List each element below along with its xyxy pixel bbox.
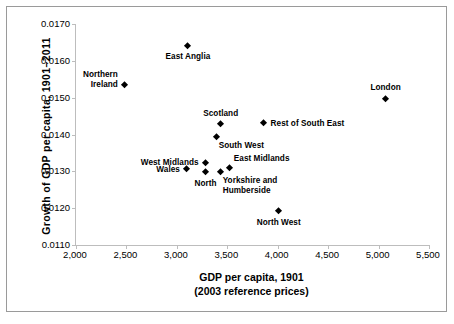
data-point-marker[interactable] (226, 164, 233, 171)
data-point-label: East Anglia (143, 52, 233, 62)
data-point-label-line: North (161, 179, 251, 189)
data-point-label-line: London (341, 83, 431, 93)
data-point-marker[interactable] (202, 169, 209, 176)
y-tick-mark (72, 135, 76, 136)
data-point-marker[interactable] (184, 42, 191, 49)
data-point-marker[interactable] (275, 208, 282, 215)
data-point-label-line: South West (219, 141, 314, 151)
y-tick-label: 0.0120 (24, 202, 70, 213)
x-tick-label: 3,000 (154, 249, 198, 260)
data-point-marker[interactable] (202, 159, 209, 166)
x-tick-label: 2,000 (53, 249, 97, 260)
data-point-label: North (161, 179, 251, 189)
data-point-label-line: North West (234, 218, 324, 228)
x-axis-title-line2: (2003 reference prices) (75, 284, 428, 298)
data-point-marker[interactable] (121, 81, 128, 88)
data-point-marker[interactable] (217, 121, 224, 128)
y-tick-label: 0.0160 (24, 55, 70, 66)
y-tick-label: 0.0150 (24, 92, 70, 103)
data-point-label-line: East Midlands (234, 154, 324, 164)
y-tick-label: 0.0130 (24, 165, 70, 176)
x-axis-tick-labels: 2,0002,5003,0003,5004,0004,5005,0005,500 (0, 249, 454, 263)
y-tick-mark (72, 24, 76, 25)
x-axis-title: GDP per capita, 1901 (2003 reference pri… (75, 270, 428, 298)
x-tick-label: 3,500 (204, 249, 248, 260)
data-point-label: Rest of South East (271, 119, 381, 129)
plot-area: East AngliaNorthernIrelandLondonRest of … (75, 24, 429, 246)
data-point-label: NorthernIreland (58, 70, 118, 89)
data-point-marker[interactable] (260, 120, 267, 127)
data-point-marker[interactable] (382, 95, 389, 102)
y-tick-mark (72, 61, 76, 62)
data-point-marker[interactable] (217, 168, 224, 175)
data-point-label-line: Rest of South East (271, 119, 381, 129)
data-point-label-line: Scotland (176, 109, 266, 119)
data-point-label-line: Northern (58, 70, 118, 80)
x-tick-label: 5,500 (406, 249, 450, 260)
x-tick-label: 2,500 (103, 249, 147, 260)
data-point-label-line: East Anglia (143, 52, 233, 62)
data-point-label-line: Wales (90, 165, 180, 175)
data-point-label: London (341, 83, 431, 93)
data-point-label: East Midlands (234, 154, 324, 164)
y-tick-label: 0.0170 (24, 18, 70, 29)
data-point-label-line: Ireland (58, 80, 118, 90)
scatter-chart-figure: Growth of GDP per capita, 1901–2011 0.01… (0, 0, 454, 324)
data-point-label: South West (219, 141, 314, 151)
x-tick-label: 4,500 (305, 249, 349, 260)
x-axis-title-line1: GDP per capita, 1901 (75, 270, 428, 284)
data-point-label: Scotland (176, 109, 266, 119)
y-axis-tick-labels: 0.01100.01200.01300.01400.01500.01600.01… (20, 0, 70, 324)
data-point-label: Wales (90, 165, 180, 175)
x-tick-label: 5,000 (356, 249, 400, 260)
y-tick-mark (72, 171, 76, 172)
data-point-label: North West (234, 218, 324, 228)
y-tick-label: 0.0140 (24, 129, 70, 140)
x-tick-label: 4,000 (255, 249, 299, 260)
data-point-marker[interactable] (213, 133, 220, 140)
y-tick-mark (72, 98, 76, 99)
y-tick-mark (72, 208, 76, 209)
